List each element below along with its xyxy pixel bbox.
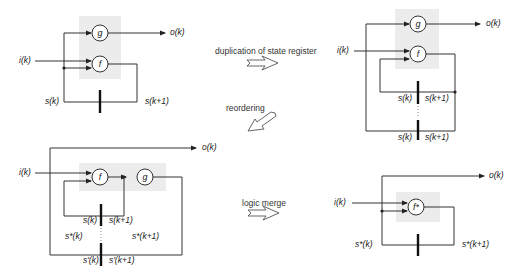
- state-register-transformation-diagram: g f i(k) o(k) s(k) s(k+1) duplication of…: [0, 0, 519, 277]
- arrow-right-icon: [247, 56, 278, 70]
- transition-logic-merge: logic merge: [242, 198, 286, 220]
- junction-dot: [380, 209, 383, 212]
- output-label: o(k): [486, 18, 501, 28]
- transition-reordering: reordering: [226, 103, 276, 131]
- input-label: i(k): [19, 55, 31, 65]
- reg1-out-label: s(k+1): [109, 215, 133, 225]
- reg2-out-label: s'(k+1): [109, 255, 135, 265]
- node-fstar-label: f*: [413, 202, 420, 212]
- node-g-label: g: [142, 172, 147, 182]
- state-in-label: s(k): [45, 96, 59, 106]
- panel-original-circuit: g f i(k) o(k) s(k) s(k+1): [19, 16, 185, 113]
- panel-reordered: f g i(k) o(k) s(k) s(k+1) s*(k) s*(k+1) …: [19, 142, 217, 266]
- output-label: o(k): [202, 142, 217, 152]
- node-g-label: g: [415, 19, 420, 29]
- merged-out-label: s*(k+1): [132, 231, 159, 241]
- panel-duplicated-register: g f i(k) o(k) s(k) s(k+1) s(k) s(k+1): [337, 9, 501, 142]
- input-label: i(k): [334, 197, 346, 207]
- output-label: o(k): [170, 27, 185, 37]
- reg1-in-label: s(k): [398, 93, 412, 103]
- arrow-down-left-icon: [248, 112, 276, 131]
- state-out-label: s*(k+1): [462, 239, 489, 249]
- output-label: o(k): [489, 170, 504, 180]
- transition-label-reordering: reordering: [226, 103, 265, 113]
- reg2-out-label: s(k+1): [425, 132, 449, 142]
- reg2-in-label: s(k): [398, 132, 412, 142]
- node-g-label: g: [97, 28, 102, 38]
- arrow-right-icon: [248, 206, 279, 220]
- reg2-in-label: s'(k): [83, 255, 99, 265]
- state-in-label: s*(k): [355, 239, 373, 249]
- reg1-out-label: s(k+1): [425, 93, 449, 103]
- input-label: i(k): [19, 167, 31, 177]
- merged-in-label: s*(k): [65, 231, 83, 241]
- transition-label-duplication: duplication of state register: [215, 46, 317, 56]
- transition-duplication: duplication of state register: [215, 46, 317, 70]
- input-label: i(k): [337, 45, 349, 55]
- junction-dot: [453, 90, 456, 93]
- reg1-in-label: s(k): [83, 215, 97, 225]
- panel-merged-logic: f* i(k) o(k) s*(k) s*(k+1): [334, 170, 504, 256]
- junction-dot: [62, 66, 65, 69]
- state-out-label: s(k+1): [145, 96, 169, 106]
